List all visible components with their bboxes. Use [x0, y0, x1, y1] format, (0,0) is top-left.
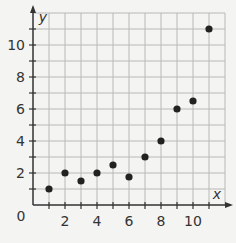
y-tick-label: 8 — [16, 69, 25, 85]
data-point — [157, 137, 164, 144]
data-point — [109, 161, 116, 168]
y-tick-label: 6 — [16, 101, 25, 117]
y-tick-label: 10 — [7, 37, 25, 53]
x-tick-label: 10 — [184, 213, 202, 229]
data-point — [93, 169, 100, 176]
x-axis-arrow-icon — [225, 202, 233, 208]
x-axis-label: x — [212, 186, 222, 202]
data-point — [61, 169, 68, 176]
data-point — [173, 105, 180, 112]
y-tick-label: 2 — [16, 165, 25, 181]
origin-label: 0 — [17, 208, 26, 224]
x-tick-label: 8 — [157, 213, 166, 229]
data-point — [45, 185, 52, 192]
x-tick-label: 6 — [125, 213, 134, 229]
data-point — [205, 25, 212, 32]
y-tick-label: 4 — [16, 133, 25, 149]
data-point — [189, 97, 196, 104]
y-axis-arrow-icon — [30, 5, 36, 13]
y-axis-label: y — [38, 9, 48, 25]
x-tick-label: 4 — [93, 213, 102, 229]
data-point — [77, 177, 84, 184]
scatter-plot: 2468102468100xy — [0, 0, 236, 243]
data-point — [141, 153, 148, 160]
x-tick-label: 2 — [61, 213, 70, 229]
data-point — [125, 173, 132, 180]
